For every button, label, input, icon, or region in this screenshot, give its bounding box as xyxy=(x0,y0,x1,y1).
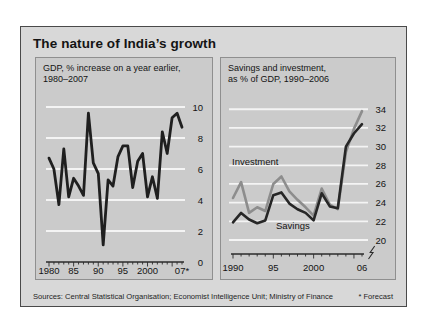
footer: Sources: Central Statistical Organisatio… xyxy=(33,292,393,301)
y-tick-label: 22 xyxy=(362,216,386,227)
x-tick-label: 06 xyxy=(345,262,379,273)
y-tick-label: 34 xyxy=(362,104,386,115)
savings-label: Savings xyxy=(276,220,310,231)
y-tick-label: 8 xyxy=(179,133,203,144)
x-tick-label: 95 xyxy=(256,262,290,273)
savings-investment-panel: Savings and investment, as % of GDP, 199… xyxy=(220,57,396,280)
y-tick-label: 6 xyxy=(179,164,203,175)
x-tick-label: 1990 xyxy=(216,262,250,273)
forecast-note: * Forecast xyxy=(358,292,393,301)
y-tick-label: 4 xyxy=(179,195,203,206)
y-tick-label: 26 xyxy=(362,178,386,189)
chart-box: The nature of India’s growth GDP, % incr… xyxy=(20,26,407,307)
y-tick-label: 20 xyxy=(362,235,386,246)
y-tick-label: 30 xyxy=(362,141,386,152)
page: { "title": "The nature of India’s growth… xyxy=(0,0,429,328)
axis-break-icon xyxy=(369,246,375,259)
x-tick-label: 2000 xyxy=(297,262,331,273)
chart-title: The nature of India’s growth xyxy=(33,36,216,51)
y-tick-label: 24 xyxy=(362,197,386,208)
y-tick-label: 2 xyxy=(179,226,203,237)
y-tick-label: 32 xyxy=(362,122,386,133)
x-tick-label: 2000 xyxy=(131,265,165,276)
x-tick-label: 07* xyxy=(165,265,199,276)
y-tick-label: 28 xyxy=(362,160,386,171)
sources-text: Sources: Central Statistical Organisatio… xyxy=(33,292,333,301)
y-tick-label: 10 xyxy=(179,102,203,113)
gdp-growth-panel: GDP, % increase on a year earlier, 1980–… xyxy=(35,57,213,280)
investment-label: Investment xyxy=(232,156,278,167)
